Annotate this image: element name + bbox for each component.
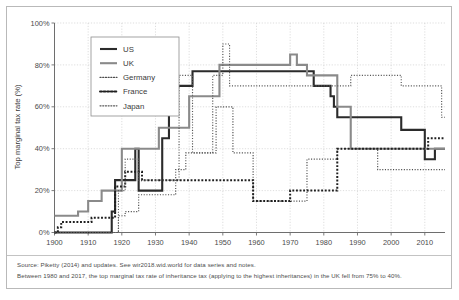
y-tick-label: 40% [35,144,50,153]
x-tick-label: 1910 [80,238,96,247]
x-tick-label: 2000 [383,238,399,247]
y-tick-labels: 0%20%40%60%80%100% [31,19,55,238]
x-tick-labels: 1900191019201930194019501960197019801990… [46,233,433,248]
legend-label-germany: Germany [123,73,155,82]
y-tick-label: 60% [35,102,50,111]
legend-label-japan: Japan [123,102,144,111]
caption-strip [6,292,452,298]
series-line-germany [55,107,446,233]
y-axis-title: Top marginal tax rate (%) [13,84,22,169]
tax-rate-line-chart: 0%20%40%60%80%100% 190019101920193019401… [7,7,451,255]
legend-label-uk: UK [123,59,135,68]
explanatory-note-line: Between 1980 and 2017, the top marginal … [17,271,443,282]
y-tick-label: 20% [35,186,50,195]
x-tick-label: 1950 [215,238,231,247]
figure-notes: Source: Piketty (2014) and updates. See … [7,255,451,288]
x-tick-label: 1970 [282,238,298,247]
x-tick-label: 1990 [349,238,365,247]
x-tick-label: 1940 [181,238,197,247]
figure-container: 0%20%40%60%80%100% 190019101920193019401… [6,6,452,289]
x-tick-label: 1930 [147,238,163,247]
legend-label-france: France [123,87,147,96]
series-line-france [55,138,446,232]
legend-label-us: US [123,45,134,54]
x-tick-label: 1900 [46,238,62,247]
y-tick-label: 0% [39,228,50,237]
chart-plot-area: 0%20%40%60%80%100% 190019101920193019401… [7,7,451,255]
y-tick-label: 80% [35,61,50,70]
y-tick-label: 100% [31,19,50,28]
x-tick-label: 2010 [417,238,433,247]
x-tick-label: 1920 [114,238,130,247]
chart-legend: USUKGermanyFranceJapan [91,37,179,116]
source-note-line: Source: Piketty (2014) and updates. See … [17,260,443,271]
x-tick-label: 1960 [248,238,264,247]
x-tick-label: 1980 [316,238,332,247]
